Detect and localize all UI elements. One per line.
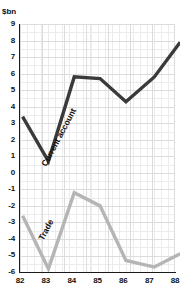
x-tick-label: 87	[138, 276, 160, 286]
y-tick-label: 0	[11, 169, 15, 177]
y-tick-label: 3	[11, 119, 15, 127]
y-tick-label: -4	[8, 235, 15, 243]
y-tick-label: -6	[8, 268, 15, 276]
y-tick-label: -2	[8, 202, 15, 210]
x-tick-label: 84	[61, 276, 83, 286]
y-tick-label: -5	[8, 251, 15, 259]
line-current-account	[23, 42, 180, 161]
y-tick-label: 1	[11, 152, 15, 160]
x-tick-label: 85	[87, 276, 109, 286]
x-tick-label: 82	[9, 276, 31, 286]
y-tick-label: 7	[11, 53, 15, 61]
y-tick-label: 4	[11, 103, 15, 111]
y-tick-label: 5	[11, 86, 15, 94]
y-axis-line	[19, 24, 20, 273]
y-tick-label: 8	[11, 37, 15, 45]
chart-container: $bn 9876543210-1-2-3-4-5-6 8283848586878…	[0, 0, 180, 294]
y-tick-label: 9	[11, 20, 15, 28]
y-tick-label: -3	[8, 218, 15, 226]
x-tick-label: 88	[164, 276, 180, 286]
y-tick-label: 6	[11, 70, 15, 78]
y-tick-label: 2	[11, 136, 15, 144]
x-tick-label: 86	[112, 276, 134, 286]
x-axis-line	[19, 272, 176, 273]
y-axis-tick-labels: 9876543210-1-2-3-4-5-6	[0, 0, 18, 294]
x-tick-label: 83	[35, 276, 57, 286]
x-axis-tick-labels: 82838485868788	[0, 276, 180, 290]
y-tick-label: -1	[8, 185, 15, 193]
